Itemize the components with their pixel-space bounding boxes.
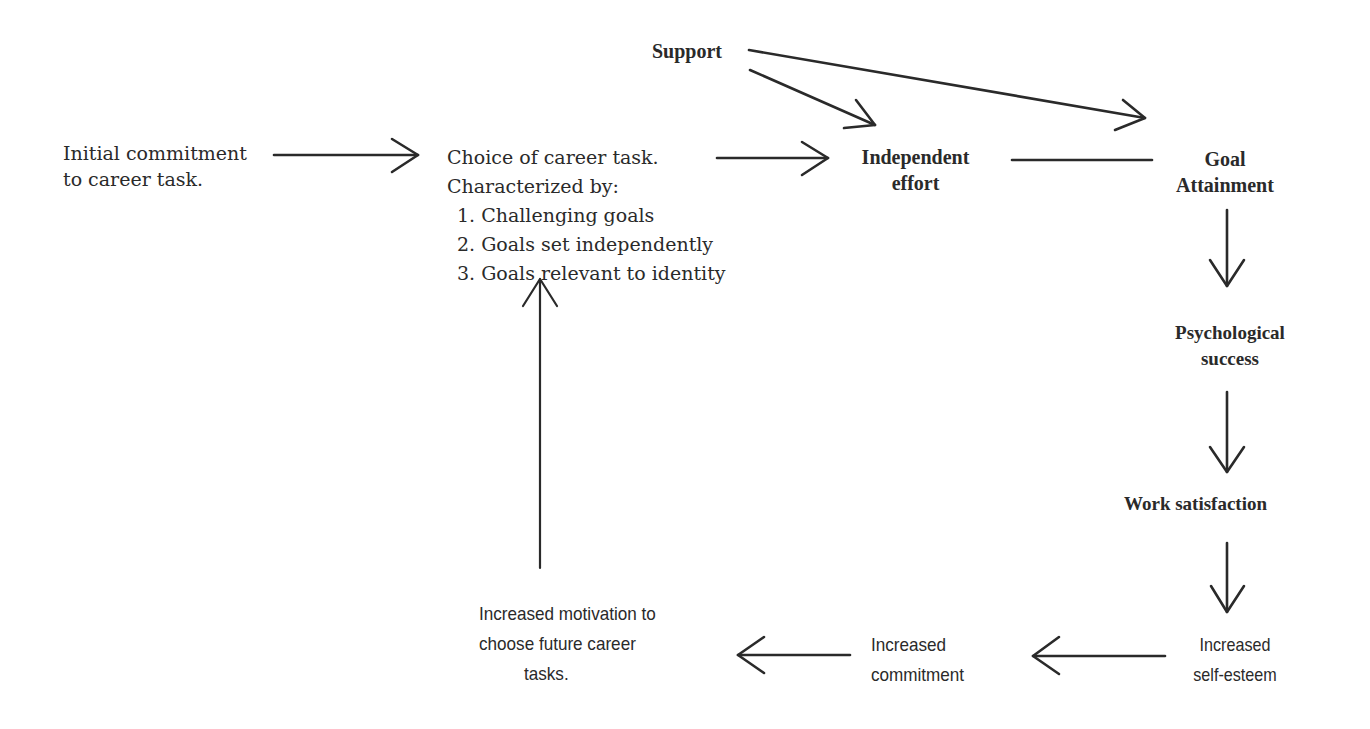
node-text: Independent (843, 144, 988, 170)
node-psychological-success: Psychological success (1155, 320, 1305, 372)
arrow-initial-to-choice (274, 139, 418, 172)
arrow-support-to-effort (750, 70, 875, 128)
node-support: Support (652, 38, 722, 64)
node-text: Choice of career task. (447, 143, 726, 172)
node-goal-attainment: Goal Attainment (1165, 146, 1285, 198)
arrow-esteem-to-commitment (1033, 637, 1165, 674)
node-increased-motivation: Increased motivation to choose future ca… (479, 599, 656, 689)
career-motivation-diagram: Initial commitment to career task. Choic… (0, 0, 1370, 729)
node-text: commitment (871, 660, 964, 690)
arrow-goal-to-psych (1210, 210, 1244, 286)
node-text: Increased (1180, 630, 1291, 660)
node-increased-self-esteem: Increased self-esteem (1180, 630, 1291, 690)
node-choice-of-career-task: Choice of career task. Characterized by:… (447, 143, 726, 288)
node-text: Initial commitment (63, 140, 247, 166)
node-text: tasks. (479, 659, 656, 689)
node-text: self-esteem (1180, 660, 1291, 690)
node-text: Psychological (1155, 320, 1305, 346)
node-text: Characterized by: (447, 172, 726, 201)
node-text: Work satisfaction (1124, 493, 1267, 514)
characteristic-item: 2. Goals set independently (447, 230, 726, 259)
arrow-commitment-to-motivation (738, 637, 850, 673)
arrow-work-to-esteem (1211, 543, 1244, 612)
arrow-support-to-goal (749, 50, 1145, 130)
characteristic-item: 1. Challenging goals (447, 201, 726, 230)
node-independent-effort: Independent effort (843, 144, 988, 196)
arrow-motivation-to-choice (523, 279, 557, 568)
node-text: Support (652, 40, 722, 62)
node-text: effort (843, 170, 988, 196)
node-text: choose future career (479, 629, 656, 659)
arrow-psych-to-work (1210, 392, 1244, 472)
node-initial-commitment: Initial commitment to career task. (63, 140, 247, 192)
node-text: Goal (1165, 146, 1285, 172)
node-work-satisfaction: Work satisfaction (1124, 491, 1267, 517)
arrow-choice-to-effort (717, 142, 828, 175)
node-increased-commitment: Increased commitment (871, 630, 964, 690)
node-text: to career task. (63, 166, 247, 192)
characteristic-item: 3. Goals relevant to identity (447, 259, 726, 288)
node-text: success (1155, 346, 1305, 372)
node-text: Increased (871, 630, 964, 660)
node-text: Attainment (1165, 172, 1285, 198)
node-text: Increased motivation to (479, 599, 656, 629)
